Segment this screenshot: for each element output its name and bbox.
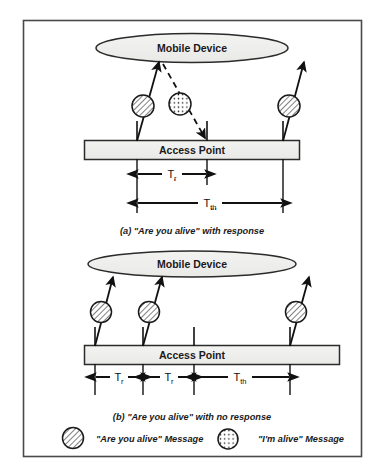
figure-container: Mobile Device Access Point: [0, 0, 384, 476]
panel-a-access-point-label: Access Point: [159, 144, 225, 156]
panel-b-access-point-label: Access Point: [159, 349, 225, 361]
are-you-alive-icon: [139, 302, 160, 323]
legend-label-are-you-alive: "Are you alive" Message: [96, 434, 203, 444]
are-you-alive-icon: [286, 302, 307, 323]
panel-b-mobile-device: Mobile Device: [88, 251, 296, 277]
panel-a-mobile-device: Mobile Device: [96, 34, 288, 63]
panel-a-access-point: Access Point: [85, 141, 300, 160]
are-you-alive-icon: [132, 95, 154, 117]
protocol-timing-diagram: Mobile Device Access Point: [0, 0, 384, 476]
im-alive-icon: [169, 93, 191, 115]
panel-b-caption: (b) "Are you alive" with no response: [113, 412, 271, 422]
panel-a-caption: (a) "Are you alive" with response: [120, 226, 264, 236]
panel-b-mobile-device-label: Mobile Device: [157, 258, 227, 270]
legend-label-im-alive: "I'm alive" Message: [258, 434, 344, 444]
im-alive-icon: [218, 429, 238, 449]
are-you-alive-icon: [278, 95, 300, 117]
are-you-alive-icon: [91, 302, 112, 323]
figure-border: [24, 21, 362, 457]
panel-a-mobile-device-label: Mobile Device: [157, 42, 227, 54]
are-you-alive-icon: [63, 428, 84, 449]
panel-b-access-point: Access Point: [85, 346, 340, 365]
